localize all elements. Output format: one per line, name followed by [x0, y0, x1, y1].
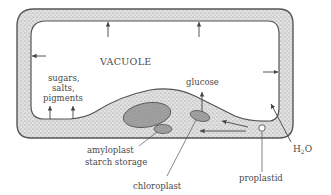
label-sugars: sugars, — [48, 73, 79, 83]
label-starch-storage: starch storage — [85, 157, 147, 167]
label-pigments: pigments — [43, 93, 83, 103]
label-vacuole: VACUOLE — [99, 56, 151, 67]
proplastid — [259, 125, 265, 131]
plant-cell-diagram: VACUOLE sugars, salts, pigments glucose … — [0, 0, 331, 195]
label-amyloplast: amyloplast — [87, 145, 134, 155]
label-glucose: glucose — [186, 77, 219, 87]
label-salts: salts, — [52, 83, 75, 93]
label-proplastid: proplastid — [239, 173, 283, 183]
label-water: H2O — [293, 144, 312, 155]
label-chloroplast: chloroplast — [133, 181, 182, 191]
